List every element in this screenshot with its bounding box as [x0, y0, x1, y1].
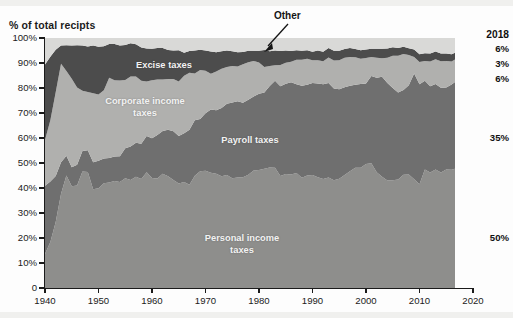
- y-tick-label: 20%: [18, 232, 37, 243]
- y-tick-mark: [39, 87, 45, 88]
- y-tick-mark: [39, 237, 45, 238]
- x-tick-label: 1970: [195, 295, 216, 306]
- y-tick-mark: [39, 162, 45, 163]
- y-tick-label: 0: [32, 282, 37, 293]
- y-tick-label: 30%: [18, 207, 37, 218]
- y-tick-mark: [39, 62, 45, 63]
- y-axis-title: % of total recipts: [9, 19, 95, 31]
- y-tick-mark: [39, 262, 45, 263]
- y-tick-label: 80%: [18, 82, 37, 93]
- x-tick-mark: [98, 288, 99, 293]
- y-tick-mark: [39, 187, 45, 188]
- x-tick-mark: [258, 288, 259, 293]
- scan-edge-top: [0, 0, 513, 6]
- x-tick-mark: [151, 288, 152, 293]
- y-tick-label: 70%: [18, 107, 37, 118]
- y-tick-label: 40%: [18, 182, 37, 193]
- y-tick-label: 10%: [18, 257, 37, 268]
- end-label-other: 6%: [495, 43, 509, 54]
- stacked-area-svg: [45, 38, 455, 288]
- x-tick-label: 2010: [409, 295, 430, 306]
- x-tick-mark: [472, 288, 473, 293]
- y-tick-label: 50%: [18, 157, 37, 168]
- y-tick-mark: [39, 112, 45, 113]
- end-label-payroll: 35%: [490, 132, 509, 143]
- chart-screenshot: % of total recipts 010%20%30%40%50%60%70…: [0, 0, 513, 318]
- x-tick-mark: [44, 288, 45, 293]
- x-tick-mark: [419, 288, 420, 293]
- end-label-year: 2018: [486, 29, 509, 40]
- y-tick-label: 100%: [12, 32, 37, 43]
- x-tick-label: 1980: [248, 295, 269, 306]
- x-tick-mark: [205, 288, 206, 293]
- y-tick-mark: [39, 37, 45, 38]
- other-annotation-label: Other: [274, 10, 301, 21]
- x-tick-label: 1960: [141, 295, 162, 306]
- y-tick-mark: [39, 212, 45, 213]
- x-tick-mark: [365, 288, 366, 293]
- end-label-corporate: 6%: [495, 73, 509, 84]
- x-tick-label: 1940: [34, 295, 55, 306]
- y-tick-label: 60%: [18, 132, 37, 143]
- other-annotation-arrow: [258, 22, 292, 54]
- plot-area: [45, 38, 455, 288]
- y-tick-label: 90%: [18, 57, 37, 68]
- end-label-personal: 50%: [490, 232, 509, 243]
- x-tick-label: 1990: [302, 295, 323, 306]
- y-tick-mark: [39, 137, 45, 138]
- x-tick-label: 2020: [462, 295, 483, 306]
- x-tick-label: 2000: [355, 295, 376, 306]
- scan-edge-bottom: [0, 312, 513, 318]
- x-tick-label: 1950: [88, 295, 109, 306]
- x-tick-mark: [312, 288, 313, 293]
- end-label-excise: 3%: [495, 58, 509, 69]
